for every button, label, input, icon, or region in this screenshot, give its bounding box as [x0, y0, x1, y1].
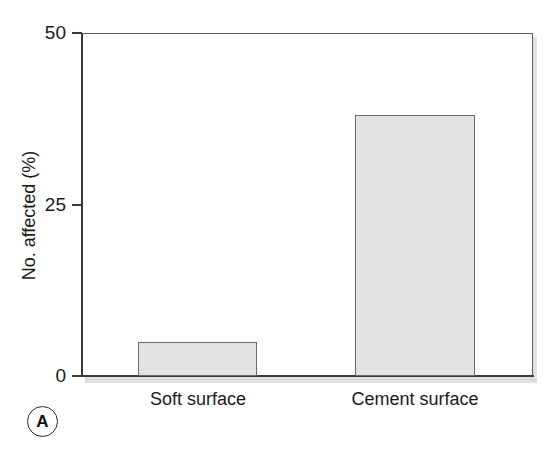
figure-panel-a: 50 25 0 No. affected (%) Soft surface Ce… — [0, 0, 554, 449]
bar-soft-surface — [138, 342, 257, 376]
y-axis-title-text: No. affected (%) — [20, 150, 41, 280]
x-category-label-cement-surface: Cement surface — [342, 388, 488, 410]
bar-cement-surface — [355, 115, 475, 376]
panel-label-a: A — [27, 406, 58, 437]
y-tick-mark-0 — [72, 375, 82, 377]
y-tick-mark-50 — [72, 32, 82, 34]
y-tick-mark-25 — [72, 204, 82, 206]
y-tick-label-0: 0 — [55, 366, 66, 385]
y-axis-title: No. affected (%) — [10, 120, 50, 310]
x-category-label-soft-surface: Soft surface — [128, 388, 268, 410]
y-tick-label-50: 50 — [45, 23, 66, 42]
x-axis-shadow — [85, 379, 537, 383]
